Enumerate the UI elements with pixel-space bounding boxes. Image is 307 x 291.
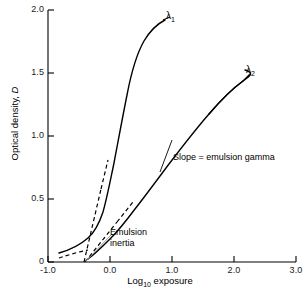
y-tick-label-2: 2.0	[10, 4, 44, 14]
y-axis-title-variable: D	[9, 87, 20, 94]
tangent-lambda-2-extension	[117, 202, 133, 222]
curve-label-lambda-1-subscript: 1	[171, 16, 175, 23]
x-tick-label-1: 1.0	[155, 265, 189, 275]
chart-figure: 2.0 1.5 1.0 0.5 0 -1.0 0.0 1.0 2.0 3.0 O…	[0, 0, 307, 291]
inertia-annotation-line1: Emulsion	[110, 227, 147, 238]
y-axis-title: Optical density, D	[9, 54, 20, 194]
curve-lambda-2-shoulder	[209, 81, 243, 114]
x-tick-label-0: 0.0	[93, 265, 127, 275]
x-axis-title-subscript: 10	[143, 281, 151, 288]
curve-label-lambda-1: λ1	[166, 10, 175, 23]
x-axis-title-base: Log	[127, 275, 143, 286]
inertia-annotation: Emulsion inertia	[110, 227, 147, 249]
y-axis-title-text: Optical density,	[9, 94, 20, 161]
x-axis-title: Log10 exposure	[60, 275, 260, 288]
inertia-annotation-line2: inertia	[110, 238, 147, 249]
curve-label-lambda-2: λ2	[246, 64, 255, 77]
slope-annotation-text: Slope = emulsion gamma	[173, 152, 275, 162]
x-axis-title-rest: exposure	[151, 275, 193, 286]
tangent-lambda-1-extension	[101, 160, 108, 189]
x-tick-label-2: 2.0	[217, 265, 251, 275]
x-tick-label-3: 3.0	[279, 265, 307, 275]
curve-label-lambda-2-subscript: 2	[251, 70, 255, 77]
curve-lambda-1	[59, 20, 165, 253]
y-tick-marks	[48, 10, 54, 262]
characteristic-curve-plot	[0, 0, 307, 291]
y-tick-label-0_5: 0.5	[10, 193, 44, 203]
x-tick-label-neg1: -1.0	[31, 265, 65, 275]
